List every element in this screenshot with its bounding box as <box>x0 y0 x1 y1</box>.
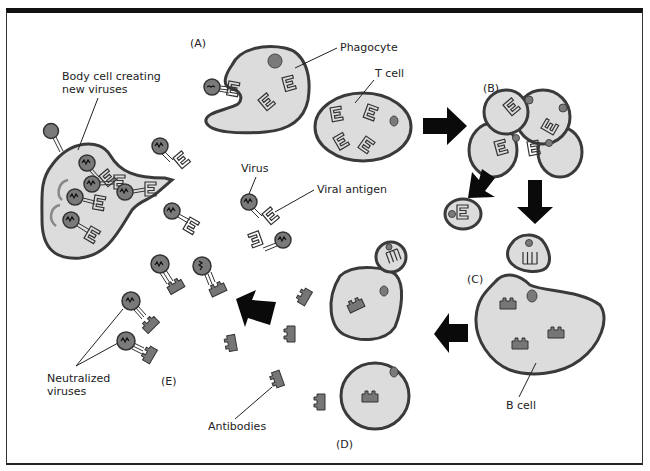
viral-antigen-leader <box>275 190 314 212</box>
antibody <box>284 326 295 342</box>
neutralized-virus <box>122 292 159 333</box>
free-virus <box>164 203 200 235</box>
budding-virus <box>44 124 64 153</box>
immune-response-diagram: Body cell creating new viruses Virus Vir… <box>0 0 650 471</box>
arrow-to-b <box>423 107 467 145</box>
b-cell-label: B cell <box>506 399 536 412</box>
body-cell-label-line1: Body cell creating <box>62 70 161 83</box>
body-cell-label-line2: new viruses <box>62 83 128 96</box>
free-virus <box>152 138 190 169</box>
phagocyte-nucleus <box>268 54 282 68</box>
phagocyte-label: Phagocyte <box>340 41 398 54</box>
phagocyte-cell <box>206 47 309 133</box>
t-cell <box>315 93 411 161</box>
stage-label-d: (D) <box>336 438 353 451</box>
t-cell-label: T cell <box>374 67 404 80</box>
neutralized-leader-1 <box>76 309 123 366</box>
b-cell <box>476 275 604 374</box>
neutralized-virus <box>151 255 185 294</box>
antibody <box>269 370 285 389</box>
free-virus <box>241 194 279 225</box>
arrow-to-c <box>517 180 553 224</box>
antibody <box>314 394 325 410</box>
plasma-cell-2 <box>341 363 409 429</box>
free-virus <box>248 231 291 251</box>
stage-label-e: (E) <box>161 375 177 388</box>
antibody <box>295 287 313 306</box>
arrow-to-e <box>236 290 276 327</box>
antibodies-leader <box>235 387 272 419</box>
memory-t-cell <box>445 199 481 229</box>
viral-antigen-label: Viral antigen <box>317 183 387 196</box>
neutralized-label-line1: Neutralized <box>47 372 110 385</box>
arrow-to-d <box>434 313 468 353</box>
helper-t-cell-d <box>376 242 406 272</box>
stage-label-a: (A) <box>190 37 206 50</box>
engulfed-virus <box>204 79 240 97</box>
antibody <box>224 334 238 352</box>
helper-t-cell-c <box>508 235 550 271</box>
antibodies-label: Antibodies <box>208 420 266 433</box>
stage-label-c: (C) <box>467 273 483 286</box>
plasma-cell-1 <box>331 268 402 340</box>
neutralized-virus <box>193 257 227 297</box>
t-cell-nucleus <box>390 116 398 126</box>
neutralized-virus <box>117 332 157 364</box>
neutralized-leader-2 <box>76 343 118 366</box>
virus-label: Virus <box>241 162 269 175</box>
body-cell-leader <box>78 98 98 150</box>
virus-leader <box>249 177 256 194</box>
neutralized-label-line2: viruses <box>47 385 87 398</box>
t-cell-cluster <box>469 90 582 177</box>
